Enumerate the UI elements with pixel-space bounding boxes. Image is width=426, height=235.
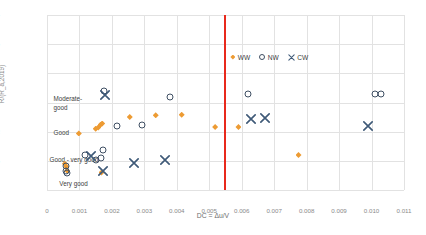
data-point-cw [160,154,171,165]
data-point-nw [99,147,106,154]
data-point-ww [179,112,185,118]
data-point-nw [97,154,104,161]
data-point-nw [64,169,71,176]
plot-area: 11.522.533.54 00.0010.0020.0030.0040.005… [47,15,404,190]
legend-item-ww[interactable]: WW [230,54,250,61]
data-point-ww [127,114,133,120]
data-point-cw [128,157,139,168]
legend-label: CW [297,54,308,61]
x-cross-icon [85,151,96,162]
x-cross-icon [100,89,111,100]
threshold-line [224,15,226,190]
diamond-icon [230,55,235,60]
data-point-nw [378,90,385,97]
legend-label: WW [238,54,250,61]
data-point-cw [260,113,271,124]
data-point-nw [166,93,173,100]
data-point-ww [212,124,218,130]
region-label: Moderate- [53,96,82,102]
legend-item-cw[interactable]: CW [288,54,309,61]
data-point-nw [245,90,252,97]
x-cross-icon [160,154,171,165]
data-point-ww [235,124,241,130]
circle-open-icon [259,54,265,60]
data-point-cw [245,113,256,124]
data-point-cw [363,120,374,131]
region-label: Very good [59,181,87,187]
data-point-ww [296,152,302,158]
gridline-vertical [404,15,405,190]
y-axis-title: R/(R_a,2019) [0,65,5,103]
x-cross-icon [260,113,271,124]
data-point-nw [113,122,120,129]
x-tick-label: 0.011 [384,208,424,214]
x-cross-icon [245,113,256,124]
legend-item-nw[interactable]: NW [259,54,279,61]
data-point-cw [85,151,96,162]
data-point-cw [97,165,108,176]
x-cross-icon [288,54,295,61]
data-point-cw [100,89,111,100]
legend-label: NW [268,54,279,61]
chart-legend: WWNWCW [230,54,308,61]
x-cross-icon [363,120,374,131]
gridline-horizontal [47,190,404,191]
region-label: good [53,105,67,111]
y-axis-title-text: R/(R_a,2019) [0,65,5,103]
x-cross-icon [97,165,108,176]
region-label: Good [53,130,68,136]
data-point-ww [153,112,159,118]
data-point-nw [139,121,146,128]
x-cross-icon [128,157,139,168]
scatter-chart: R/(R_a,2019) DC = Δu/V 11.522.533.54 00.… [0,0,426,235]
